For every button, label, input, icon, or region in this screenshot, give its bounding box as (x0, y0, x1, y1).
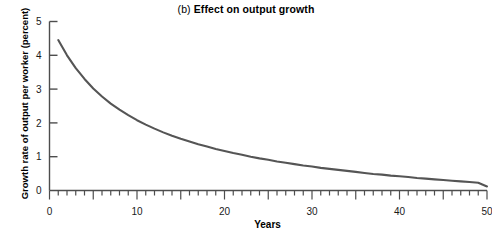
y-tick-marks (50, 22, 58, 157)
y-tick-label: 4 (36, 50, 42, 61)
plot-area: 012345 01020304050 (0, 0, 492, 234)
y-tick-label: 3 (36, 84, 42, 95)
x-tick-label: 40 (394, 206, 406, 217)
y-tick-label: 2 (36, 118, 42, 129)
x-tick-label: 30 (306, 206, 318, 217)
x-tick-label: 20 (219, 206, 231, 217)
x-tick-label: 10 (131, 206, 143, 217)
chart-figure: (b) Effect on output growth Growth rate … (0, 0, 492, 234)
y-tick-label: 5 (36, 16, 42, 27)
x-tick-marks (50, 191, 488, 200)
data-series-line (58, 40, 487, 186)
y-tick-label: 1 (36, 151, 42, 162)
y-tick-label: 0 (36, 185, 42, 196)
x-tick-label-group: 01020304050 (47, 206, 492, 217)
y-tick-label-group: 012345 (36, 16, 42, 196)
x-tick-label: 0 (47, 206, 53, 217)
x-tick-label: 50 (481, 206, 492, 217)
